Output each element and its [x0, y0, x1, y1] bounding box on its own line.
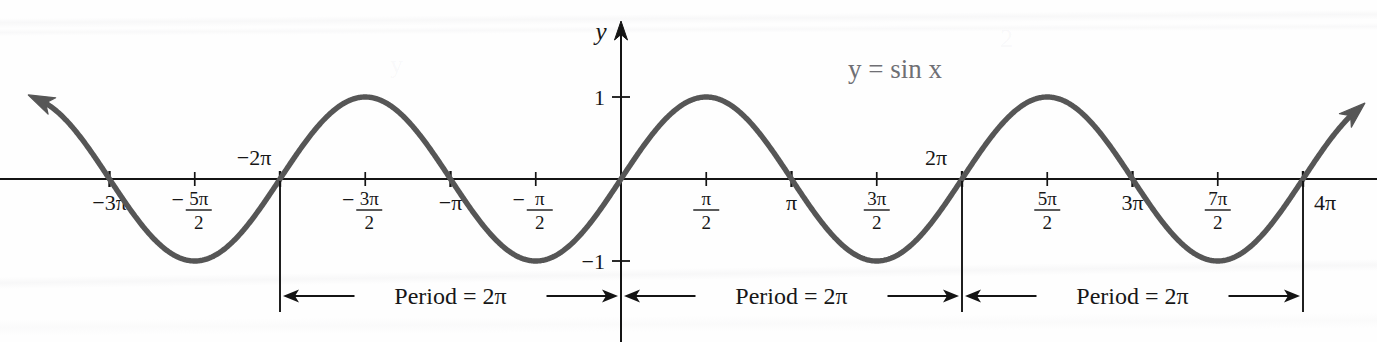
period-bracket-1: Period = 2π — [394, 283, 506, 309]
x-tick-label-denominator: 2 — [1043, 212, 1053, 233]
x-tick-label-denominator: 2 — [535, 212, 545, 233]
x-tick-label-sign: − — [513, 187, 525, 212]
x-tick-label-numerator: 5π — [189, 188, 209, 209]
x-tick-label-numerator: 3π — [867, 188, 887, 209]
period-bracket-2: Period = 2π — [735, 283, 847, 309]
x-tick-label: 4π — [1314, 190, 1336, 215]
x-tick-label-sign: − — [172, 187, 184, 212]
x-tick-label-numerator: 7π — [1208, 188, 1228, 209]
x-tick-label-denominator: 2 — [872, 212, 882, 233]
x-tick-label-denominator: 2 — [702, 212, 712, 233]
sine-plot-svg: y1−1−3π−5π2−2π−3π2−π−π2π2π3π22π5π23π7π24… — [0, 0, 1377, 342]
x-tick-label-numerator: π — [535, 188, 545, 209]
curve-equation-label: y = sin x — [848, 54, 942, 84]
y-axis-label: y — [592, 18, 607, 45]
x-tick-label: −2π — [237, 145, 272, 170]
x-tick-label-numerator: π — [701, 188, 711, 209]
sine-graph-figure: y 2 y1−1−3π−5π2−2π−3π2−π−π2π2π3π22π5π23π… — [0, 0, 1377, 342]
x-tick-label-denominator: 2 — [365, 212, 375, 233]
y-tick-label: −1 — [582, 249, 605, 274]
x-tick-label-sign: − — [342, 187, 354, 212]
period-bracket-3: Period = 2π — [1076, 283, 1188, 309]
y-tick-label: 1 — [594, 85, 605, 110]
x-tick-label-denominator: 2 — [1213, 212, 1223, 233]
x-tick-label: 2π — [925, 145, 947, 170]
x-tick-label-numerator: 3π — [360, 188, 380, 209]
x-tick-label-numerator: 5π — [1038, 188, 1058, 209]
x-tick-label-denominator: 2 — [194, 212, 204, 233]
x-tick-label: π — [786, 190, 797, 215]
